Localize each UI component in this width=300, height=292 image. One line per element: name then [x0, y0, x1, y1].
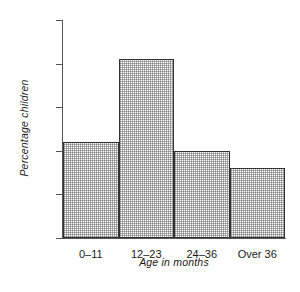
x-axis-title: Age in months [63, 256, 285, 268]
bar [230, 168, 286, 238]
plot-area: 0–11 12–23 24–36 Over 36 [63, 20, 285, 238]
bar-chart: Percentage children 0 10 20 30 40 50 0–1… [0, 0, 300, 292]
x-axis-line [62, 238, 286, 239]
y-tick-mark [56, 107, 62, 108]
bar [63, 142, 119, 238]
y-tick-mark [56, 64, 62, 65]
y-axis-title: Percentage children [18, 33, 30, 223]
y-tick-mark [56, 194, 62, 195]
bar [119, 59, 175, 238]
y-tick-mark [56, 238, 62, 239]
y-tick-mark [56, 20, 62, 21]
bar [174, 151, 230, 238]
y-tick-mark [56, 151, 62, 152]
